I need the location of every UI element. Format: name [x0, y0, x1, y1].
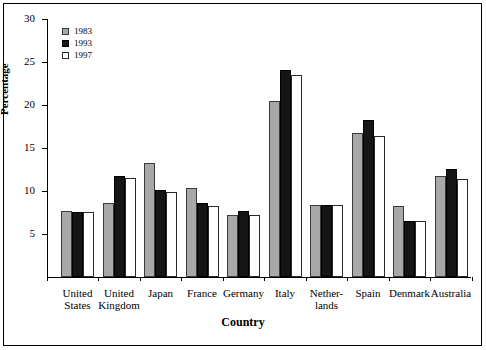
bar — [186, 188, 197, 277]
x-tick — [389, 277, 390, 281]
y-tick-label-25: 25 — [11, 56, 35, 67]
bar — [291, 75, 302, 277]
y-tick-30 — [42, 19, 47, 20]
bar-group — [435, 19, 468, 277]
bar — [208, 206, 219, 277]
y-tick-5 — [42, 234, 47, 235]
bar — [197, 203, 208, 277]
bar — [125, 178, 136, 277]
x-axis-title: Country — [0, 315, 486, 330]
bar-group — [269, 19, 302, 277]
legend-item: 1997 — [62, 50, 92, 61]
bar — [83, 212, 94, 277]
bar — [393, 206, 404, 277]
legend-item: 1983 — [62, 26, 92, 37]
bar — [435, 176, 446, 277]
chart-legend: 198319931997 — [62, 26, 92, 62]
bar — [61, 211, 72, 277]
white-open-square-icon — [62, 52, 69, 59]
y-axis-line — [47, 19, 48, 278]
bar — [249, 215, 260, 277]
x-tick — [181, 277, 182, 281]
y-tick-10 — [42, 191, 47, 192]
bar — [457, 179, 468, 277]
bar — [227, 215, 238, 277]
bar — [404, 221, 415, 277]
y-tick-label-15: 15 — [11, 142, 35, 153]
bar — [374, 136, 385, 277]
bar — [332, 205, 343, 277]
bar — [269, 101, 280, 277]
bar — [310, 205, 321, 277]
y-tick-25 — [42, 62, 47, 63]
x-axis-line — [47, 277, 471, 278]
bar — [72, 212, 83, 277]
bar — [415, 221, 426, 277]
bar — [321, 205, 332, 277]
bar — [352, 133, 363, 277]
bar-group — [352, 19, 385, 277]
x-category-label: Australia — [424, 287, 479, 299]
bar — [166, 192, 177, 277]
bar — [155, 190, 166, 277]
x-tick — [347, 277, 348, 281]
bar — [363, 120, 374, 277]
bar-group — [103, 19, 136, 277]
y-tick-label-5: 5 — [11, 228, 35, 239]
bar — [238, 211, 249, 277]
x-tick — [98, 277, 99, 281]
black-filled-square-icon — [62, 40, 69, 47]
bar — [144, 163, 155, 277]
legend-label: 1993 — [74, 38, 92, 49]
bar — [103, 203, 114, 277]
bar-group — [310, 19, 343, 277]
x-tick — [430, 277, 431, 281]
legend-item: 1993 — [62, 38, 92, 49]
plot-area: 51015202530 United StatesUnited KingdomJ… — [47, 19, 471, 278]
gray-filled-square-icon — [62, 28, 69, 35]
bar-group — [393, 19, 426, 277]
y-tick-20 — [42, 105, 47, 106]
y-tick-label-10: 10 — [11, 185, 35, 196]
x-tick — [472, 277, 473, 281]
x-tick — [140, 277, 141, 281]
x-tick — [264, 277, 265, 281]
x-tick — [306, 277, 307, 281]
legend-label: 1983 — [74, 26, 92, 37]
y-tick-15 — [42, 148, 47, 149]
x-tick — [223, 277, 224, 281]
y-axis-title: Percentage — [0, 63, 10, 115]
x-tick — [47, 277, 48, 281]
y-tick-label-20: 20 — [11, 99, 35, 110]
y-tick-label-30: 30 — [11, 13, 35, 24]
bar — [114, 176, 125, 277]
bar-group — [227, 19, 260, 277]
bar-group — [186, 19, 219, 277]
legend-label: 1997 — [74, 50, 92, 61]
bar-group — [144, 19, 177, 277]
bar — [280, 70, 291, 277]
chart-figure: Percentage 51015202530 United StatesUnit… — [0, 0, 486, 350]
bar — [446, 169, 457, 277]
